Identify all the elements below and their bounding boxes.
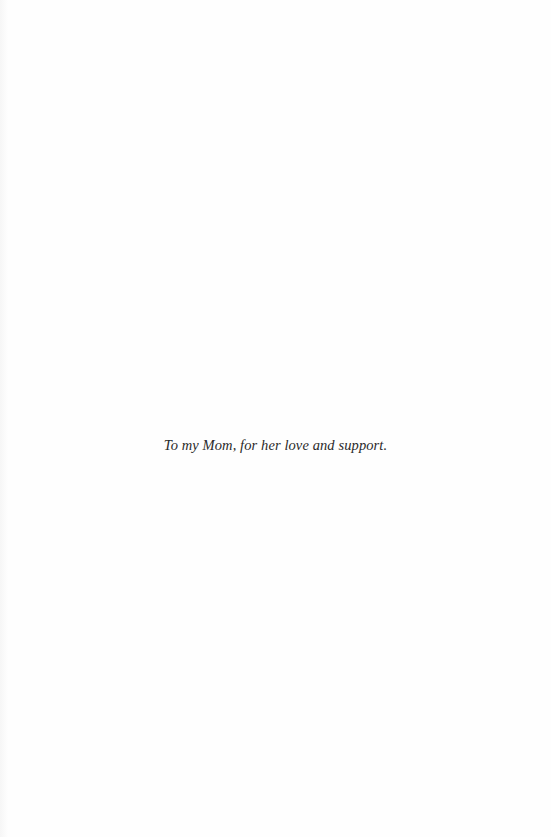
dedication-text: To my Mom, for her love and support.	[0, 435, 551, 455]
book-page: To my Mom, for her love and support.	[0, 0, 551, 837]
scan-edge-shadow	[0, 0, 8, 837]
